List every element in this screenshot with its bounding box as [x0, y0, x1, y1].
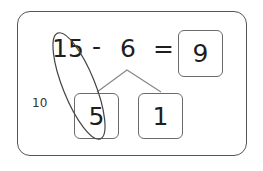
branch-lines	[97, 70, 161, 92]
annotation-layer	[0, 0, 263, 171]
